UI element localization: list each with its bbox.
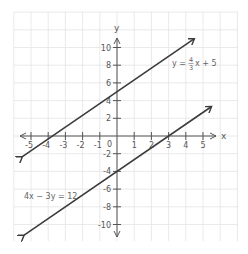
x-axis-label: x (221, 131, 227, 141)
x-tick-label: 5 (201, 141, 206, 150)
eq1-denominator: 3 (189, 64, 193, 72)
eq1-suffix: x + 5 (195, 59, 217, 68)
eq1-prefix: y = (172, 59, 186, 68)
axes: x y 0 (20, 23, 227, 237)
y-tick-label: -10 (98, 221, 111, 230)
series-line-4x-minus-3y-equals-12 (24, 107, 211, 236)
grid (14, 12, 238, 241)
y-tick-label: -4 (103, 167, 111, 176)
y-tick-label: 2 (106, 114, 111, 123)
y-tick-label: 8 (106, 61, 111, 70)
x-tick-label: -5 (25, 141, 33, 150)
coordinate-plane-chart: x y 0 -5-4-3-2-112345 108642-2-4-6-8-10 … (0, 0, 248, 254)
x-tick-label: 3 (166, 141, 171, 150)
y-tick-label: 10 (101, 44, 111, 53)
equation-label-2: 4x − 3y = 12 (24, 192, 77, 201)
origin-label: 0 (107, 140, 112, 149)
x-tick-label: 4 (183, 141, 188, 150)
x-tick-label: -1 (94, 141, 102, 150)
x-tick-label: -2 (77, 141, 85, 150)
equation-label-1: y = 4 3 x + 5 (172, 56, 217, 72)
x-tick-label: -3 (59, 141, 67, 150)
y-tick-label: -6 (103, 185, 111, 194)
y-tick-label: -2 (103, 150, 111, 159)
x-ticks: -5-4-3-2-112345 (25, 132, 206, 150)
y-tick-label: 6 (106, 79, 111, 88)
x-tick-label: 1 (132, 141, 137, 150)
y-tick-label: -8 (103, 203, 111, 212)
y-axis-label: y (114, 23, 120, 33)
